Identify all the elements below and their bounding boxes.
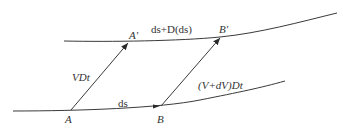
lower-streamline-curve — [13, 81, 285, 111]
point-label-a: A — [64, 113, 72, 125]
point-label-a-prime: A' — [128, 29, 139, 41]
v-plus-dv-dt-label: (V+dV)Dt — [198, 79, 244, 92]
upper-streamline-curve — [64, 13, 337, 41]
ds-plus-d-ds-label: ds+D(ds) — [151, 23, 192, 36]
point-label-b: B — [157, 113, 164, 125]
diagram-canvas: A B A' B' ds ds+D(ds) VDt (V+dV)Dt — [0, 0, 343, 131]
point-label-b-prime: B' — [219, 23, 229, 35]
ds-label: ds — [118, 97, 128, 109]
v-dt-label: VDt — [72, 71, 91, 83]
vector-b-to-b-prime — [161, 38, 220, 106]
